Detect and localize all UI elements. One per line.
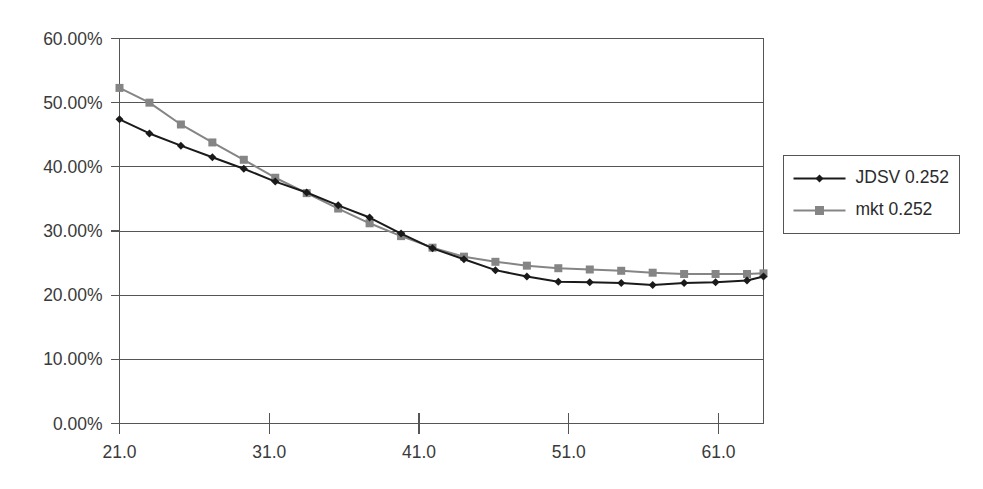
data-point-marker xyxy=(177,120,185,128)
x-axis-tick-label: 31.0 xyxy=(252,442,286,462)
data-point-marker xyxy=(208,153,216,161)
data-point-marker xyxy=(116,84,124,92)
data-point-marker xyxy=(145,99,153,107)
x-axis-tick-label: 21.0 xyxy=(102,442,136,462)
data-point-marker xyxy=(491,258,499,266)
data-point-marker xyxy=(240,156,248,164)
series-line xyxy=(120,88,764,274)
y-axis-tick-label: 40.00% xyxy=(43,157,102,177)
chart-container: 60.00%50.00%40.00%30.00%20.00%10.00%0.00… xyxy=(0,0,983,489)
series-mkt xyxy=(116,84,768,278)
data-point-marker xyxy=(554,278,562,286)
y-axis-tick-label: 30.00% xyxy=(43,221,102,241)
data-point-marker xyxy=(712,278,720,286)
data-point-marker xyxy=(649,281,657,289)
x-axis-tick-label: 41.0 xyxy=(402,442,436,462)
data-point-marker xyxy=(491,266,499,274)
data-point-marker xyxy=(208,138,216,146)
gridlines xyxy=(120,39,764,424)
data-point-marker xyxy=(523,273,531,281)
data-point-marker xyxy=(523,262,531,270)
data-point-marker xyxy=(116,115,124,123)
y-axis-tick-label: 60.00% xyxy=(43,29,102,49)
data-point-marker xyxy=(617,267,625,275)
line-chart: 60.00%50.00%40.00%30.00%20.00%10.00%0.00… xyxy=(0,0,983,489)
y-axis-tick-label: 50.00% xyxy=(43,93,102,113)
y-axis-ticks xyxy=(111,39,120,424)
data-point-marker xyxy=(586,278,594,286)
data-point-marker xyxy=(680,279,688,287)
data-point-marker xyxy=(617,279,625,287)
x-axis-tick-label: 51.0 xyxy=(552,442,586,462)
data-point-marker xyxy=(649,269,657,277)
data-point-marker xyxy=(554,264,562,272)
data-point-marker xyxy=(680,270,688,278)
y-axis-tick-label: 0.00% xyxy=(53,414,103,434)
x-axis-labels: 21.031.041.051.061.0 xyxy=(102,442,735,462)
y-axis-tick-label: 20.00% xyxy=(43,285,102,305)
chart-legend: JDSV 0.252mkt 0.252 xyxy=(784,156,960,234)
data-point-marker xyxy=(586,266,594,274)
legend-item-label[interactable]: JDSV 0.252 xyxy=(856,167,949,187)
x-axis-tick-label: 61.0 xyxy=(702,442,736,462)
y-axis-tick-label: 10.00% xyxy=(43,349,102,369)
y-axis-labels: 60.00%50.00%40.00%30.00%20.00%10.00%0.00… xyxy=(43,29,102,434)
data-point-marker xyxy=(177,142,185,150)
data-series-group xyxy=(116,84,768,289)
data-point-marker xyxy=(815,206,824,215)
data-point-marker xyxy=(145,129,153,137)
data-point-marker xyxy=(240,165,248,173)
data-point-marker xyxy=(712,270,720,278)
legend-item-label[interactable]: mkt 0.252 xyxy=(856,199,933,219)
